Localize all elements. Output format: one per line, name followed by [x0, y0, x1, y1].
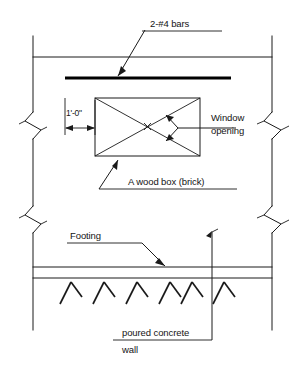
hatch-tick	[126, 282, 148, 304]
wood-box-label: A wood box (brick)	[128, 176, 204, 188]
hatch-tick	[93, 282, 115, 304]
break-symbol-tails	[19, 121, 289, 224]
footing-band	[33, 267, 272, 278]
box-center-cross-icon	[144, 123, 151, 130]
hatch-tick	[213, 282, 235, 304]
footing-label: Footing	[70, 230, 101, 242]
hatch-tick	[181, 282, 203, 304]
poured-concrete-wall-leader	[113, 229, 218, 340]
wall-right-line	[264, 36, 281, 330]
rebar-leader	[118, 30, 222, 76]
poured-concrete-label-line2: wall	[122, 344, 138, 356]
hatch-tick	[60, 282, 82, 304]
technical-drawing: 2-#4 bars 1'-0" Window opening A wood bo…	[0, 0, 308, 370]
window-opening-label-line1: Window	[211, 112, 244, 124]
poured-concrete-label-line1: poured concrete	[122, 327, 189, 339]
dimension-label: 1'-0"	[66, 108, 82, 120]
window-opening-label-line2: opening	[211, 125, 244, 137]
hatch-tick	[159, 282, 181, 304]
wall-left-line	[25, 36, 41, 330]
footing-leader	[67, 243, 165, 266]
rebar-label: 2-#4 bars	[150, 18, 189, 30]
concrete-hatch-group	[60, 282, 235, 304]
